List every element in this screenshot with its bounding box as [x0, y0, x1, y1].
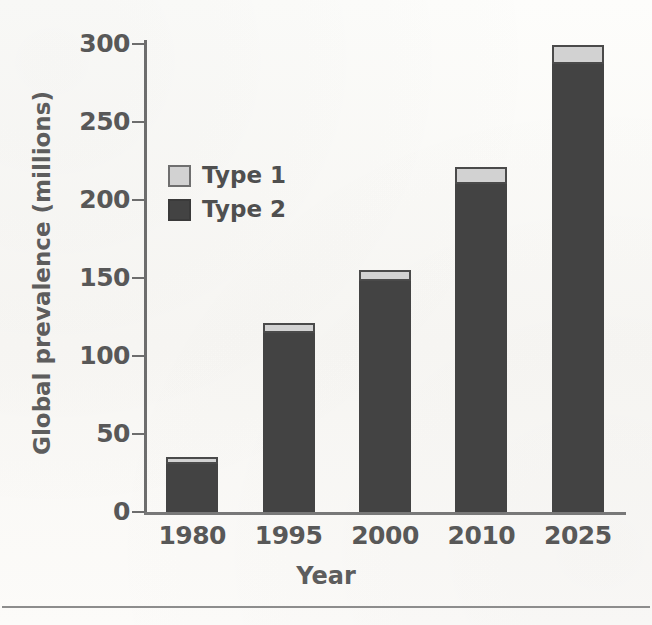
legend-swatch-type-2-icon: [168, 199, 191, 221]
bar-group-1995: [263, 44, 315, 512]
y-axis-tick-label: 0: [58, 499, 130, 524]
page-bottom-rule: [2, 606, 650, 608]
x-axis-title: Year: [0, 562, 652, 590]
y-axis-title: Global prevalence (millions): [29, 73, 55, 473]
bar-segment-type-1-2000: [359, 270, 411, 281]
chart-legend: Type 1 Type 2: [168, 160, 318, 228]
y-axis-tick-labels: 050100150200250300: [46, 0, 130, 625]
y-axis-tick-label: 50: [58, 421, 130, 446]
legend-swatch-type-1-icon: [168, 165, 191, 187]
legend-label-type-1: Type 1: [202, 164, 286, 187]
y-axis-tick-label: 300: [58, 31, 130, 56]
bar-segment-type-2-1995: [263, 333, 315, 512]
bar-segment-type-1-1995: [263, 323, 315, 333]
legend-item-type-2: Type 2: [168, 194, 318, 225]
bar-segment-type-2-2010: [455, 184, 507, 512]
bar-segment-type-2-2025: [552, 64, 604, 512]
plot-area: [144, 44, 626, 512]
bar-segment-type-1-2025: [552, 45, 604, 64]
bar-group-2000: [359, 44, 411, 512]
y-axis-tick-label: 250: [58, 109, 130, 134]
x-axis-tick-label-2025: 2025: [518, 521, 638, 550]
bar-group-1980: [166, 44, 218, 512]
legend-label-type-2: Type 2: [202, 198, 286, 221]
y-axis-tick-label: 100: [58, 343, 130, 368]
bar-group-2010: [455, 44, 507, 512]
bar-segment-type-2-2000: [359, 281, 411, 512]
x-axis-line: [144, 512, 626, 515]
bar-segment-type-2-1980: [166, 464, 218, 512]
bar-group-2025: [552, 44, 604, 512]
chart-figure: 050100150200250300 Global prevalence (mi…: [0, 0, 652, 625]
y-axis-tick-label: 150: [58, 265, 130, 290]
bar-segment-type-1-1980: [166, 457, 218, 464]
legend-item-type-1: Type 1: [168, 160, 318, 191]
y-axis-tick-label: 200: [58, 187, 130, 212]
bar-segment-type-1-2010: [455, 167, 507, 185]
